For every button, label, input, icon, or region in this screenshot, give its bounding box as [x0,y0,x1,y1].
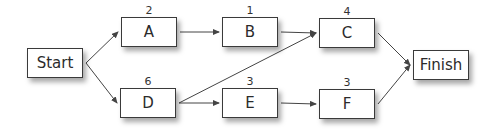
arrow-F-to-finish [378,65,410,104]
duration-label: 3 [222,75,278,88]
node-e: E [222,88,278,118]
arrow-start-to-D [86,63,117,103]
node-label: E [245,94,254,112]
node-f: F [319,89,375,119]
node-d: D [120,88,176,118]
duration-label: 1 [222,4,278,17]
node-b: B [222,17,278,47]
node-c: C [319,18,375,48]
duration-label: 4 [319,5,375,18]
network-diagram: StartA2B1C4D6E3F3Finish [0,0,499,131]
node-start: Start [27,48,83,78]
duration-label: 6 [120,75,176,88]
node-label: A [144,23,154,41]
arrow-start-to-A [86,32,118,63]
duration-label: 3 [319,76,375,89]
arrow-E-to-F [281,103,316,104]
node-label: Finish [420,56,463,74]
duration-label: 2 [121,4,177,17]
node-a: A [121,17,177,47]
arrow-C-to-finish [378,33,410,65]
node-label: D [142,94,154,112]
node-label: B [245,23,255,41]
node-label: Start [37,54,74,72]
node-finish: Finish [413,50,469,80]
node-label: C [342,24,352,42]
node-label: F [343,95,352,113]
arrow-B-to-C [281,32,316,33]
